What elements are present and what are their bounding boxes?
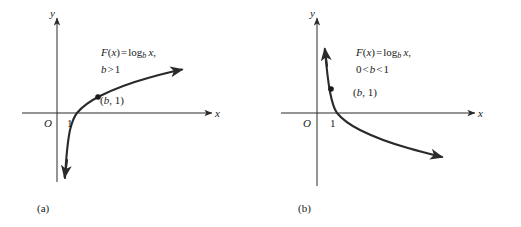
panel-a-caption: (a) [37,203,49,214]
x-tick-label-1: 1 [330,118,336,129]
y-axis-label: y [310,8,315,19]
condition-value: 1 [115,63,121,75]
x-axis-label: x [478,108,483,119]
formula-close-paren: ) [116,46,120,58]
panel-a: y x O 1 (b, 1) F(x)=logb x, b>1 (a) [0,0,260,227]
panel-b-formula: F(x)=logb x, 0<b<1 [356,45,411,77]
formula-close-paren: ) [371,46,375,58]
formula-comma: , [408,46,411,58]
log-curve-upper-arrow [325,49,327,66]
formula-comma: , [153,46,156,58]
formula-equals: = [121,46,127,58]
formula-line-1: F(x)=logb x, [101,45,156,62]
formula-func: F [101,46,108,58]
formula-line-1: F(x)=logb x, [356,45,411,62]
panel-a-formula: F(x)=logb x, b>1 [101,45,156,77]
condition-lower: 0 [356,63,362,75]
origin-label: O [44,118,52,129]
condition-base: b [370,63,376,75]
logarithm-graphs-figure: y x O 1 (b, 1) F(x)=logb x, b>1 (a) [0,0,521,227]
condition-operator-1: < [363,63,369,75]
formula-log: log [128,46,142,58]
panel-b-caption: (b) [298,203,311,214]
panel-b-plot [261,0,521,200]
marked-point-label: (b, 1) [100,95,124,106]
formula-func: F [356,46,363,58]
condition-base: b [101,63,107,75]
panel-b: y x O 1 (b, 1) F(x)=logb x, 0<b<1 (b) [261,0,521,227]
formula-equals: = [376,46,382,58]
condition-upper: 1 [383,63,389,75]
marked-point [328,86,334,92]
origin-label: O [303,118,311,129]
point-close-paren: ) [373,86,377,98]
point-close-paren: ) [120,94,124,106]
formula-log: log [383,46,397,58]
x-tick-label-1: 1 [67,118,73,129]
log-curve-increasing [65,70,182,179]
x-axis-label: x [215,108,220,119]
formula-line-2: 0<b<1 [356,62,411,77]
y-axis-label: y [50,8,55,19]
formula-line-2: b>1 [101,62,156,77]
condition-operator: > [108,63,114,75]
condition-operator-2: < [376,63,382,75]
marked-point-label: (b, 1) [353,87,377,98]
panel-a-plot [0,0,260,200]
